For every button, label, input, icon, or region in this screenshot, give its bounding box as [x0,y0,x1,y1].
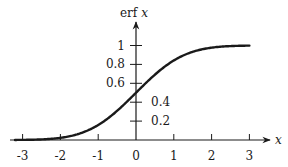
x-tick-label: 3 [246,149,254,163]
erf-chart: -3-2-10123 0.20.40.60.81 erfx x [0,0,288,167]
x-tick-label: 2 [208,149,216,163]
x-axis-label: x [275,133,282,147]
erf-curve [15,46,249,140]
x-tick-label: -2 [55,149,67,163]
y-ticks: 0.20.40.60.81 [106,39,171,129]
y-tick-label: 0.4 [151,95,170,109]
y-tick-label: 0.8 [106,57,125,71]
x-tick-label: 0 [132,149,140,163]
x-tick-label: -1 [92,149,104,163]
y-axis-label: erfx [120,6,148,20]
x-tick-label: 1 [170,149,178,163]
x-tick-label: -3 [17,149,29,163]
y-tick-label: 0.2 [151,114,170,128]
y-tick-label: 0.6 [106,76,125,90]
y-tick-label: 1 [117,39,125,53]
